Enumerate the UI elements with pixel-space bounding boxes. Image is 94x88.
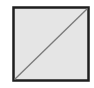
placeholder-box xyxy=(12,6,90,82)
canvas xyxy=(0,0,94,88)
square-diagonal-icon xyxy=(12,6,90,82)
